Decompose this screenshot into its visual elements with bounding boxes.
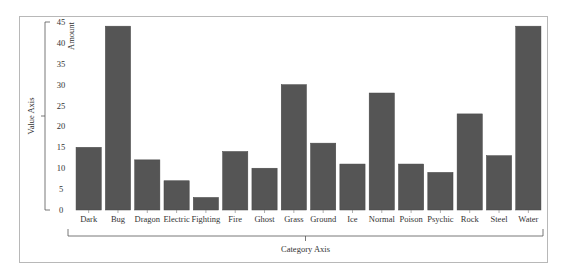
y-tick-label: 40: [57, 38, 66, 48]
bar-normal[interactable]: [369, 93, 394, 210]
y-tick-label: 30: [57, 80, 66, 90]
category-axis-bracket: [68, 229, 543, 236]
bar-poison[interactable]: [398, 164, 423, 210]
bar-rock[interactable]: [457, 114, 482, 210]
bar-electric[interactable]: [164, 181, 189, 210]
x-tick-label: Grass: [284, 214, 303, 224]
x-tick-label: Fire: [228, 214, 242, 224]
x-tick-label: Ground: [310, 214, 337, 224]
bar-water[interactable]: [516, 26, 541, 210]
bar-grass[interactable]: [281, 85, 306, 210]
bar-bug[interactable]: [105, 26, 130, 210]
bar-steel[interactable]: [486, 156, 511, 210]
y-tick-label: 20: [57, 121, 66, 131]
bar-ghost[interactable]: [252, 168, 277, 210]
x-tick-label: Water: [518, 214, 538, 224]
x-tick-label: Ghost: [254, 214, 275, 224]
x-tick-label: Dark: [80, 214, 98, 224]
bar-chart: Value Axis051015202530354045AmountDarkBu…: [0, 0, 565, 279]
bar-fighting[interactable]: [193, 197, 218, 210]
y-tick-label: 15: [57, 142, 66, 152]
bar-psychic[interactable]: [428, 172, 453, 210]
x-tick-label: Fighting: [192, 214, 222, 224]
series-label: Amount: [66, 21, 76, 50]
x-tick-label: Rock: [461, 214, 480, 224]
y-tick-label: 45: [57, 17, 66, 27]
x-tick-label: Bug: [111, 214, 126, 224]
x-tick-label: Poison: [400, 214, 424, 224]
x-tick-label: Electric: [163, 214, 190, 224]
bar-dark[interactable]: [76, 147, 101, 210]
bar-dragon[interactable]: [135, 160, 160, 210]
y-tick-label: 0: [59, 205, 63, 215]
bar-fire[interactable]: [223, 152, 248, 210]
category-axis-label: Category Axis: [281, 244, 330, 254]
x-tick-label: Dragon: [135, 214, 161, 224]
y-tick-label: 10: [57, 163, 66, 173]
y-tick-label: 5: [59, 184, 63, 194]
x-tick-label: Ice: [347, 214, 358, 224]
value-axis-bracket: [45, 22, 50, 210]
value-axis-label: Value Axis: [26, 97, 36, 134]
x-tick-label: Psychic: [427, 214, 454, 224]
y-tick-label: 25: [57, 101, 66, 111]
x-tick-label: Steel: [491, 214, 509, 224]
bar-ice[interactable]: [340, 164, 365, 210]
x-tick-label: Normal: [369, 214, 396, 224]
bar-ground[interactable]: [311, 143, 336, 210]
y-tick-label: 35: [57, 59, 66, 69]
